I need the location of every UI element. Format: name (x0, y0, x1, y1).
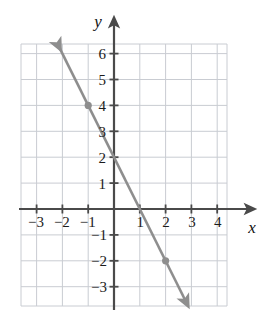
data-point (162, 257, 169, 264)
y-tick-label: 4 (99, 98, 107, 114)
y-tick-label: 3 (99, 124, 107, 140)
axis-name-labels: xy (92, 12, 256, 237)
graph-figure: −3−2−11234654321−1−2−3 xy (0, 0, 269, 323)
y-axis-label: y (92, 12, 102, 31)
data-point (85, 102, 92, 109)
x-tick-label: 3 (188, 214, 196, 230)
x-tick-label: 2 (162, 214, 170, 230)
x-tick-label: 4 (214, 214, 222, 230)
y-tick-label: 2 (99, 150, 107, 166)
x-tick-label: 1 (137, 214, 145, 230)
x-tick-label: −2 (54, 214, 70, 230)
y-tick-label: −2 (91, 253, 107, 269)
y-tick-label: −3 (91, 279, 107, 295)
y-tick-label: 6 (99, 46, 107, 62)
y-tick-label: 5 (99, 72, 107, 88)
y-tick-label: 1 (99, 176, 107, 192)
x-axis-label: x (247, 218, 256, 237)
x-tick-label: −3 (28, 214, 44, 230)
axis-tick-marks (37, 54, 218, 287)
coordinate-plane-svg: −3−2−11234654321−1−2−3 xy (0, 0, 269, 323)
tick-labels: −3−2−11234654321−1−2−3 (28, 46, 222, 295)
y-tick-label: −1 (91, 227, 107, 243)
axis-lines (19, 22, 250, 310)
